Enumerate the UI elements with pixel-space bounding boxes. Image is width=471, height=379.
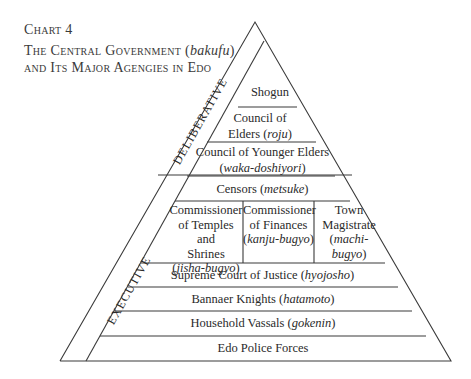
level-censors: Censors (metsuke) xyxy=(180,181,345,197)
level-shogun: Shogun xyxy=(240,84,300,100)
commissioner-finances: Commissioner of Finances (kanju-bugyo) xyxy=(243,203,314,247)
level-edo-police-forces: Edo Police Forces xyxy=(100,340,426,356)
commissioner-temples-shrines: Commissioner of Temples and Shrines (jis… xyxy=(168,203,244,276)
level-bannaer-knights: Bannaer Knights (hatamoto) xyxy=(128,291,398,307)
level-supreme-court: Supreme Court of Justice (hyojosho) xyxy=(140,267,385,283)
level-council-of-younger-elders: Council of Younger Elders (waka-doshiyor… xyxy=(195,144,330,176)
town-magistrate: Town Magistrate (machi-bugyo) xyxy=(314,203,384,261)
level-household-vassals: Household Vassals (gokenin) xyxy=(114,315,412,331)
level-council-of-elders: Council of Elders (roju) xyxy=(210,110,310,142)
